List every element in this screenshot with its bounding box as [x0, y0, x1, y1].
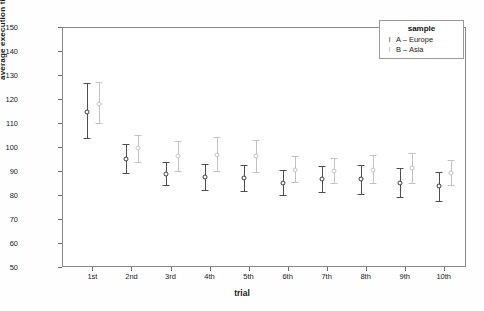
- data-point-marker: [319, 177, 324, 182]
- data-point-marker: [331, 168, 336, 173]
- x-tick-label: 10th: [436, 272, 451, 281]
- data-point-marker: [409, 166, 414, 171]
- data-point-marker: [280, 180, 285, 185]
- error-bar-cap: [96, 123, 103, 124]
- error-bar-cap: [357, 165, 364, 166]
- error-bar-cap: [408, 183, 415, 184]
- x-tick-label: 3rd: [165, 272, 176, 281]
- error-bar-cap: [96, 82, 103, 83]
- error-bar-cap: [174, 141, 181, 142]
- y-tick-label: 150: [0, 23, 18, 32]
- legend-errorbar-icon: I: [386, 36, 393, 44]
- error-bar-cap: [447, 185, 454, 186]
- data-point-marker: [448, 171, 453, 176]
- data-point-marker: [241, 176, 246, 181]
- legend-title: sample: [384, 24, 459, 33]
- x-tick-mark: [92, 267, 93, 271]
- legend-errorbar-icon: I: [386, 46, 393, 54]
- error-bar-cap: [240, 165, 247, 166]
- error-bar-cap: [435, 172, 442, 173]
- data-point-marker: [97, 101, 102, 106]
- data-point-marker: [124, 156, 129, 161]
- plot-area: [62, 27, 466, 267]
- error-bar-cap: [357, 194, 364, 195]
- error-bar-cap: [318, 166, 325, 167]
- error-bar-cap: [435, 201, 442, 202]
- y-tick-label: 90: [0, 167, 18, 176]
- error-bar-cap: [318, 192, 325, 193]
- legend-entry-label: A – Europe: [396, 35, 433, 44]
- error-bar-cap: [213, 137, 220, 138]
- error-bar-cap: [369, 183, 376, 184]
- y-tick-label: 100: [0, 143, 18, 152]
- error-bar-cap: [240, 191, 247, 192]
- y-tick-label: 60: [0, 239, 18, 248]
- data-point-marker: [358, 177, 363, 182]
- y-tick-label: 50: [0, 263, 18, 272]
- y-tick-label: 110: [0, 119, 18, 128]
- data-point-marker: [214, 153, 219, 158]
- x-tick-mark: [327, 267, 328, 271]
- error-bar-cap: [201, 164, 208, 165]
- x-tick-mark: [444, 267, 445, 271]
- x-tick-label: 7th: [321, 272, 331, 281]
- data-point-marker: [136, 146, 141, 151]
- data-point-marker: [163, 172, 168, 177]
- error-bar-cap: [408, 153, 415, 154]
- legend-entry-label: B – Asia: [396, 45, 424, 54]
- x-tick-mark: [171, 267, 172, 271]
- x-tick-label: 5th: [243, 272, 253, 281]
- error-bar-cap: [162, 185, 169, 186]
- error-bar-cap: [330, 183, 337, 184]
- x-tick-mark: [366, 267, 367, 271]
- error-bar-cap: [396, 168, 403, 169]
- x-tick-label: 2nd: [125, 272, 138, 281]
- legend-entry: IA – Europe: [386, 35, 459, 44]
- data-point-marker: [85, 110, 90, 115]
- data-point-marker: [202, 174, 207, 179]
- x-tick-label: 6th: [282, 272, 292, 281]
- error-bar-cap: [291, 182, 298, 183]
- data-point-marker: [436, 184, 441, 189]
- error-bar-cap: [201, 190, 208, 191]
- error-bar-cap: [291, 156, 298, 157]
- error-bar-cap: [369, 155, 376, 156]
- y-tick-label: 70: [0, 215, 18, 224]
- x-tick-mark: [131, 267, 132, 271]
- error-bar-cap: [174, 171, 181, 172]
- error-bar-cap: [279, 195, 286, 196]
- data-point-marker: [175, 154, 180, 159]
- data-point-marker: [370, 167, 375, 172]
- error-bar-cap: [123, 173, 130, 174]
- x-tick-mark: [405, 267, 406, 271]
- error-bar-cap: [330, 158, 337, 159]
- x-tick-mark: [288, 267, 289, 271]
- error-bar-cap: [396, 197, 403, 198]
- x-tick-label: 8th: [360, 272, 370, 281]
- error-bar-cap: [213, 171, 220, 172]
- y-tick-label: 130: [0, 71, 18, 80]
- x-axis-label: trial: [0, 288, 484, 298]
- data-point-marker: [292, 167, 297, 172]
- error-bar-cap: [279, 170, 286, 171]
- error-bar-cap: [252, 140, 259, 141]
- data-point-marker: [397, 180, 402, 185]
- error-bar-cap: [84, 138, 91, 139]
- error-bar-cap: [447, 160, 454, 161]
- x-tick-mark: [249, 267, 250, 271]
- y-tick-label: 80: [0, 191, 18, 200]
- y-tick-label: 140: [0, 47, 18, 56]
- error-bar-cap: [123, 144, 130, 145]
- x-tick-label: 4th: [204, 272, 214, 281]
- legend-entry: IB – Asia: [386, 45, 459, 54]
- error-bar-cap: [135, 162, 142, 163]
- error-bar-cap: [84, 83, 91, 84]
- legend-entries: IA – EuropeIB – Asia: [384, 35, 459, 54]
- error-bar-cap: [135, 135, 142, 136]
- legend: sample IA – EuropeIB – Asia: [379, 20, 464, 59]
- x-tick-label: 1st: [87, 272, 97, 281]
- y-tick-mark: [58, 267, 62, 268]
- data-point-marker: [253, 154, 258, 159]
- error-bar-cap: [162, 162, 169, 163]
- x-tick-label: 9th: [399, 272, 409, 281]
